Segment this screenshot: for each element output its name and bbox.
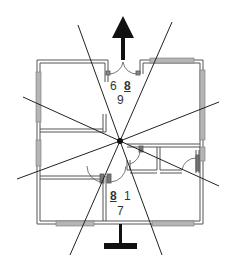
sight-lines	[17, 22, 219, 255]
label-bottom-bottom: 7	[117, 205, 124, 217]
floor-plan-diagram	[0, 0, 234, 271]
label-bottom-right: 1	[124, 190, 131, 202]
doors	[87, 62, 199, 183]
label-bottom-left: 8	[110, 190, 117, 202]
hub-point-icon	[117, 138, 123, 144]
label-top-left: 6	[110, 80, 117, 92]
label-top-bottom: 9	[117, 94, 124, 106]
entrance-marker-icon	[104, 224, 137, 249]
label-top-right: 8	[124, 80, 131, 92]
north-arrow-icon	[112, 16, 134, 60]
